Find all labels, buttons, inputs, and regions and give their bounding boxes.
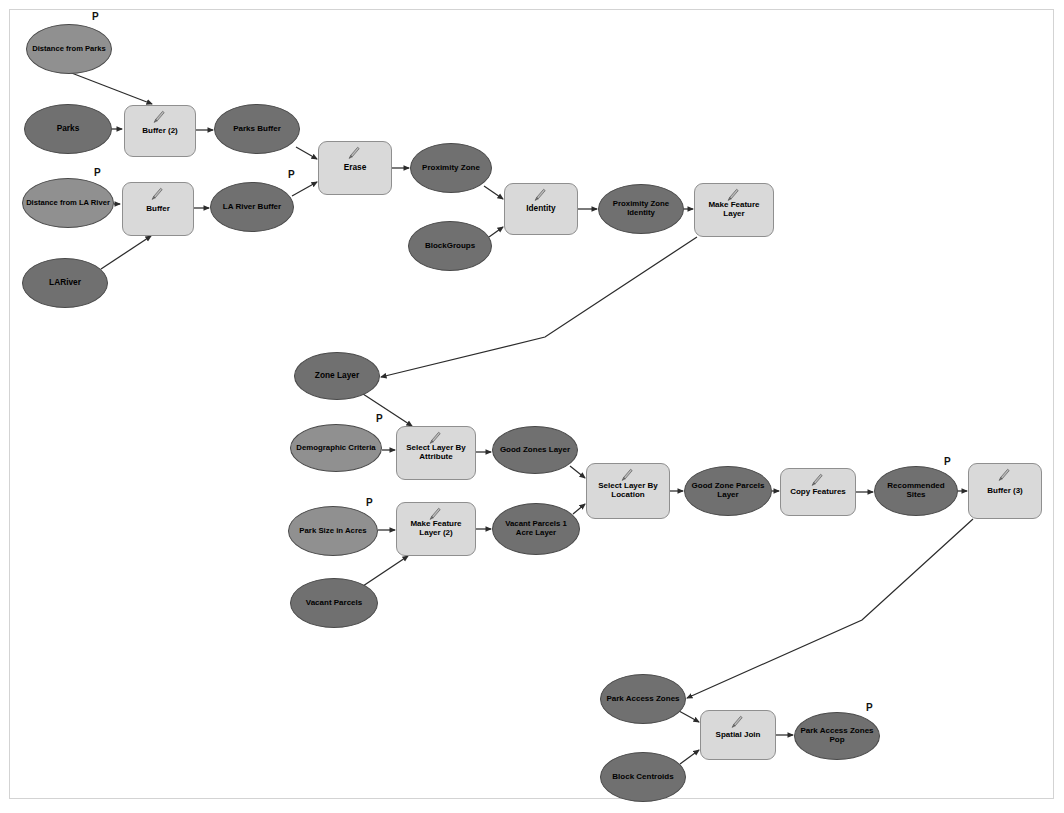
geoprocessing-tool-icon [149, 187, 167, 201]
geoprocessing-tool-icon [809, 473, 827, 487]
tool-node-erase[interactable]: Erase [318, 141, 392, 195]
data-node-demographic_criteria[interactable]: Demographic Criteria [290, 424, 382, 472]
node-label: Buffer (3) [969, 487, 1041, 496]
tool-node-buffer_3[interactable]: Buffer (3) [968, 463, 1042, 519]
data-node-park_size_in_acres[interactable]: Park Size in Acres [288, 506, 378, 556]
parameter-marker-input-select_layer_by_attribute: P [376, 414, 383, 424]
node-label: Distance from Parks [27, 45, 111, 54]
data-node-parks_buffer[interactable]: Parks Buffer [214, 104, 300, 154]
node-label: LA River Buffer [211, 203, 293, 212]
data-node-proximity_zone[interactable]: Proximity Zone [410, 143, 492, 193]
data-node-la_river_buffer[interactable]: LA River Buffer [210, 182, 294, 232]
node-label: Make Feature Layer (2) [397, 520, 475, 538]
parameter-marker-park_size_in_acres: P [366, 498, 373, 508]
node-label: Demographic Criteria [291, 444, 381, 453]
node-label: Copy Features [781, 488, 855, 497]
tool-node-make_feature_layer[interactable]: Make Feature Layer [694, 183, 774, 237]
parameter-marker-input-erase: P [288, 170, 295, 180]
node-label: Parks [25, 124, 111, 133]
tool-node-select_layer_by_location[interactable]: Select Layer By Location [586, 463, 670, 519]
node-label: Buffer [123, 205, 193, 214]
node-label: Parks Buffer [215, 125, 299, 134]
parameter-marker-distance_from_la_river: P [94, 168, 101, 178]
geoprocessing-tool-icon [729, 715, 747, 729]
data-node-zone_layer[interactable]: Zone Layer [294, 352, 380, 400]
geoprocessing-tool-icon [346, 146, 364, 160]
data-node-vacant_parcels[interactable]: Vacant Parcels [290, 578, 378, 628]
data-node-recommended_sites[interactable]: Recommended Sites [874, 466, 958, 516]
data-node-good_zone_parcels_layer[interactable]: Good Zone Parcels Layer [684, 466, 772, 516]
tool-node-make_feature_layer_2[interactable]: Make Feature Layer (2) [396, 502, 476, 556]
tool-node-identity[interactable]: Identity [504, 183, 578, 235]
node-label: Park Access Zones [601, 695, 685, 704]
node-label: Vacant Parcels [291, 599, 377, 608]
node-label: Buffer (2) [125, 127, 195, 136]
data-node-park_access_zones_pop[interactable]: Park Access Zones Pop [794, 712, 880, 760]
node-label: Proximity Zone Identity [599, 200, 683, 217]
parameter-marker-park_access_zones_pop: P [866, 703, 873, 713]
node-label: Good Zone Parcels Layer [685, 482, 771, 500]
tool-node-spatial_join[interactable]: Spatial Join [700, 710, 776, 760]
node-label: Erase [319, 163, 391, 172]
data-node-park_access_zones[interactable]: Park Access Zones [600, 674, 686, 724]
parameter-marker-distance_from_parks: P [92, 12, 99, 22]
node-label: Good Zones Layer [493, 446, 577, 455]
tool-node-copy_features[interactable]: Copy Features [780, 468, 856, 516]
node-label: Spatial Join [701, 731, 775, 740]
node-label: Select Layer By Location [587, 482, 669, 500]
node-label: Proximity Zone [411, 164, 491, 173]
node-label: Zone Layer [295, 371, 379, 380]
data-node-block_centroids[interactable]: Block Centroids [600, 752, 686, 802]
tool-node-buffer[interactable]: Buffer [122, 182, 194, 236]
node-label: Vacant Parcels 1 Acre Layer [493, 520, 579, 537]
data-node-good_zones_layer[interactable]: Good Zones Layer [492, 426, 578, 474]
data-node-blockgroups[interactable]: BlockGroups [408, 221, 492, 271]
node-label: Recommended Sites [875, 482, 957, 500]
node-label: Identity [505, 204, 577, 213]
node-label: Park Size in Acres [289, 527, 377, 536]
geoprocessing-tool-icon [532, 188, 550, 202]
node-label: Make Feature Layer [695, 201, 773, 219]
data-node-lariver[interactable]: LARiver [22, 258, 108, 308]
tool-node-buffer_2[interactable]: Buffer (2) [124, 105, 196, 157]
data-node-parks[interactable]: Parks [24, 104, 112, 154]
tool-node-select_layer_by_attribute[interactable]: Select Layer By Attribute [396, 426, 476, 480]
data-node-proximity_zone_identity[interactable]: Proximity Zone Identity [598, 184, 684, 234]
node-label: Block Centroids [601, 773, 685, 782]
geoprocessing-tool-icon [996, 468, 1014, 482]
modelbuilder-canvas: Distance from ParksParksBuffer (2)Parks … [0, 0, 1064, 813]
geoprocessing-tool-icon [151, 110, 169, 124]
node-label: LARiver [23, 278, 107, 287]
data-node-distance_from_la_river[interactable]: Distance from LA River [22, 178, 114, 228]
geoprocessing-tool-icon [619, 468, 637, 482]
parameter-marker-recommended_sites: P [944, 457, 951, 467]
node-label: Distance from LA River [23, 199, 113, 208]
node-label: Park Access Zones Pop [795, 727, 879, 745]
data-node-distance_from_parks[interactable]: Distance from Parks [26, 24, 112, 74]
node-label: Select Layer By Attribute [397, 444, 475, 462]
data-node-vacant_parcels_1_acre_layer[interactable]: Vacant Parcels 1 Acre Layer [492, 503, 580, 555]
node-label: BlockGroups [409, 242, 491, 251]
